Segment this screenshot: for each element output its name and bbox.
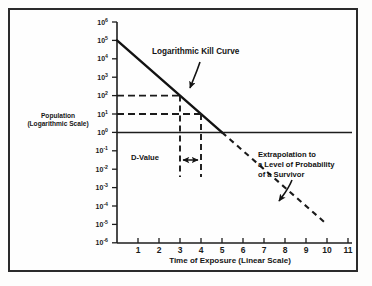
chart-plot-area <box>0 0 372 286</box>
figure-container: 106 105 104 103 102 101 100 10-1 10-2 10… <box>0 0 372 286</box>
x-tick-label-11: 11 <box>340 246 356 255</box>
d-value-annotation: D-Value <box>131 153 159 163</box>
x-tick-label-3: 3 <box>173 246 187 255</box>
x-tick-label-8: 8 <box>278 246 292 255</box>
x-tick-label-4: 4 <box>194 246 208 255</box>
x-tick-label-9: 9 <box>299 246 313 255</box>
x-tick-label-6: 6 <box>236 246 250 255</box>
extrapolation-annotation-line3: of a Survivor <box>258 170 334 180</box>
y-tick-label-10e-5: 10-5 <box>78 221 108 228</box>
y-tick-label-10e2: 102 <box>78 92 108 99</box>
extrapolation-annotation-line2: a Level of Probability <box>258 160 334 170</box>
extrapolation-annotation: Extrapolation to a Level of Probability … <box>258 150 334 180</box>
y-tick-label-10e-1: 10-1 <box>78 147 108 154</box>
x-tick-label-1: 1 <box>131 246 145 255</box>
y-tick-label-10e3: 103 <box>78 74 108 81</box>
y-tick-label-10e-6: 10-6 <box>78 239 108 246</box>
y-axis-title: Population (Logarithmic Scale) <box>18 112 98 128</box>
y-tick-label-10e0: 100 <box>78 129 108 136</box>
y-tick-label-10e5: 105 <box>78 37 108 44</box>
kill-curve-annotation-line1: Logarithmic Kill Curve <box>152 47 239 58</box>
x-tick-label-5: 5 <box>215 246 229 255</box>
extrapolation-annotation-line1: Extrapolation to <box>258 150 334 160</box>
y-axis-title-line1: Population <box>18 112 98 120</box>
y-tick-label-10e-3: 10-3 <box>78 184 108 191</box>
x-axis-title: Time of Exposure (Linear Scale) <box>130 256 330 266</box>
y-tick-label-10e6: 106 <box>78 19 108 26</box>
x-tick-label-7: 7 <box>257 246 271 255</box>
x-tick-label-10: 10 <box>319 246 335 255</box>
y-tick-label-10e-2: 10-2 <box>78 166 108 173</box>
y-tick-label-10e-4: 10-4 <box>78 203 108 210</box>
kill-curve-annotation: Logarithmic Kill Curve <box>152 47 239 58</box>
x-tick-label-2: 2 <box>152 246 166 255</box>
extrapolation-pointer-arrow <box>279 180 292 201</box>
y-axis-title-line2: (Logarithmic Scale) <box>18 120 98 128</box>
kill-curve-pointer-arrow <box>190 62 200 88</box>
y-tick-label-10e4: 104 <box>78 55 108 62</box>
